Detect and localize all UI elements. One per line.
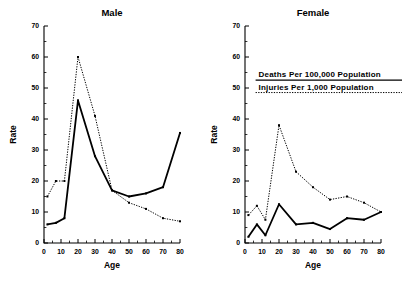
male-y-tick-label: 30 (31, 146, 39, 153)
female-x-tick-label: 40 (309, 248, 317, 255)
male-x-tick-label: 60 (142, 248, 150, 255)
legend-label-injuries: Injuries Per 1,000 Population (259, 83, 374, 92)
male-x-tick-label: 20 (74, 248, 82, 255)
male-x-axis-label: Age (104, 260, 120, 270)
male-y-tick-label: 70 (31, 22, 39, 29)
female-x-tick-label: 0 (243, 248, 247, 255)
female-markers-deaths (247, 203, 382, 238)
female-y-tick-label: 40 (232, 115, 240, 122)
male-y-tick-label: 20 (31, 177, 39, 184)
female-y-tick-label: 50 (232, 84, 240, 91)
male-x-tick-label: 50 (125, 248, 133, 255)
male-series-deaths (47, 100, 180, 224)
male-x-axis-ticks: 01020304050607080 (42, 239, 184, 255)
female-x-axis-ticks: 01020304050607080 (243, 239, 385, 255)
male-y-tick-label: 0 (35, 239, 39, 246)
chart-panel-female: Female01020304050607001020304050607080Ag… (201, 0, 402, 286)
female-x-tick-label: 10 (258, 248, 266, 255)
female-x-tick-label: 60 (343, 248, 351, 255)
male-plot-svg: Male01020304050607001020304050607080AgeR… (0, 0, 201, 286)
figure-two-panel-line-chart: Male01020304050607001020304050607080AgeR… (0, 0, 402, 286)
male-x-tick-label: 80 (176, 248, 184, 255)
female-series-injuries (248, 125, 381, 220)
female-y-tick-label: 20 (232, 177, 240, 184)
male-x-tick-label: 30 (91, 248, 99, 255)
female-y-tick-label: 10 (232, 208, 240, 215)
female-y-axis-ticks: 010203040506070 (232, 22, 249, 246)
chart-panel-male: Male01020304050607001020304050607080AgeR… (0, 0, 201, 286)
legend-label-deaths: Deaths Per 100,000 Population (259, 70, 381, 79)
female-y-axis-label: Rate (209, 125, 219, 144)
female-axis-lines (245, 26, 381, 243)
chart-legend: Deaths Per 100,000 PopulationInjuries Pe… (256, 70, 402, 92)
male-chart-title: Male (101, 7, 122, 18)
male-x-tick-label: 70 (159, 248, 167, 255)
male-y-tick-label: 10 (31, 208, 39, 215)
female-y-tick-label: 30 (232, 146, 240, 153)
male-y-tick-label: 60 (31, 53, 39, 60)
male-x-tick-label: 0 (42, 248, 46, 255)
male-x-tick-label: 10 (57, 248, 65, 255)
male-y-axis-label: Rate (8, 125, 18, 144)
female-y-tick-label: 0 (236, 239, 240, 246)
female-x-tick-label: 30 (292, 248, 300, 255)
female-x-axis-label: Age (305, 260, 321, 270)
female-x-tick-label: 70 (360, 248, 368, 255)
male-y-tick-label: 50 (31, 84, 39, 91)
female-plot-svg: Female01020304050607001020304050607080Ag… (201, 0, 402, 286)
female-chart-title: Female (297, 7, 330, 18)
male-y-tick-label: 40 (31, 115, 39, 122)
female-x-tick-label: 80 (377, 248, 385, 255)
female-x-tick-label: 20 (275, 248, 283, 255)
female-x-tick-label: 50 (326, 248, 334, 255)
female-series-deaths (248, 204, 381, 237)
female-y-tick-label: 60 (232, 53, 240, 60)
male-y-axis-ticks: 010203040506070 (31, 22, 48, 246)
female-y-tick-label: 70 (232, 22, 240, 29)
male-x-tick-label: 40 (108, 248, 116, 255)
